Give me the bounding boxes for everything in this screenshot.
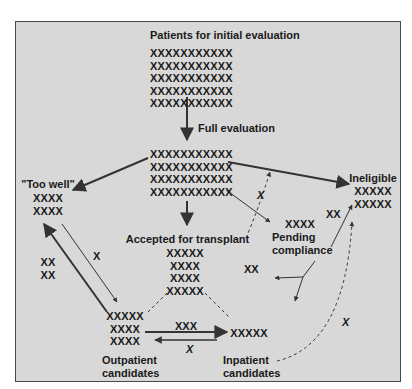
mark-row: XXXXX — [105, 310, 145, 323]
mark-row: XXXXXXXXXXX — [150, 60, 225, 73]
mark-row: XXXXXXXXXXX — [150, 173, 225, 186]
mark-row: XXXXX — [229, 327, 269, 340]
mark-row: XXXX — [160, 272, 210, 285]
node-initial-label: Patients for initial evaluation — [150, 29, 290, 42]
node-outpatient-label-1: Outpatient — [102, 354, 157, 367]
mark-row: XXXXXXXXXXX — [150, 161, 225, 174]
edge-label-inpatient-ineligible: X — [342, 316, 349, 329]
node-inpatient-label-2: candidates — [223, 367, 280, 380]
mark-row: XXXX — [20, 192, 76, 205]
mark-row: XX — [36, 269, 60, 282]
edge-label-pending-split: XX — [244, 263, 259, 276]
node-ineligible-marks: XXXXX XXXXX — [348, 185, 398, 210]
mark-row: XXXXXXXXXXX — [150, 85, 225, 98]
node-inpatient-marks: XXXXX — [229, 327, 269, 340]
node-full-eval-label: Full evaluation — [198, 122, 275, 135]
mark-row: XXXXXXXXXXX — [150, 148, 225, 161]
node-initial-marks: XXXXXXXXXXX XXXXXXXXXXX XXXXXXXXXXX XXXX… — [150, 47, 225, 110]
edge-label-outpatient-toowell: XX XX — [36, 256, 60, 281]
mark-row: XXXX — [105, 323, 145, 336]
mark-row: XXXX — [20, 205, 76, 218]
node-too-well-label: "Too well" — [20, 178, 76, 191]
edge-label-toowell-outpatient: X — [93, 250, 100, 263]
node-accepted-label: Accepted for transplant — [120, 233, 255, 246]
mark-row: XXXXX — [160, 285, 210, 298]
edge-label-outpatient-inpatient: XXX — [175, 320, 197, 333]
edge-label-pending-ineligible: XX — [326, 208, 341, 221]
mark-row: XXXXX — [348, 185, 398, 198]
mark-row: XXXX — [280, 218, 320, 231]
mark-row: XXXXX — [160, 247, 210, 260]
node-pending-marks: XXXX — [280, 218, 320, 231]
edge-label-inpatient-outpatient: X — [186, 343, 193, 356]
node-ineligible-label: Ineligible — [348, 172, 398, 185]
node-inpatient-label-1: Inpatient — [223, 354, 269, 367]
node-full-eval-marks: XXXXXXXXXXX XXXXXXXXXXX XXXXXXXXXXX XXXX… — [150, 148, 225, 198]
mark-row: XXXX — [160, 260, 210, 273]
node-outpatient-label-2: candidates — [102, 367, 159, 380]
mark-row: XX — [36, 256, 60, 269]
mark-row: XXXX — [105, 335, 145, 348]
node-pending-label-2: compliance — [272, 244, 333, 257]
mark-row: XXXXXXXXXXX — [150, 47, 225, 60]
node-outpatient-marks: XXXXX XXXX XXXX — [105, 310, 145, 348]
edge-label-dashed-to-full: X — [257, 189, 264, 202]
mark-row: XXXXXXXXXXX — [150, 186, 225, 199]
mark-row: XXXXXXXXXXX — [150, 97, 225, 110]
mark-row: XXXXX — [348, 198, 398, 211]
node-pending-label-1: Pending — [272, 231, 315, 244]
node-too-well-marks: XXXX XXXX — [20, 192, 76, 217]
mark-row: XXXXXXXXXXX — [150, 72, 225, 85]
node-accepted-marks: XXXXX XXXX XXXX XXXXX — [160, 247, 210, 297]
